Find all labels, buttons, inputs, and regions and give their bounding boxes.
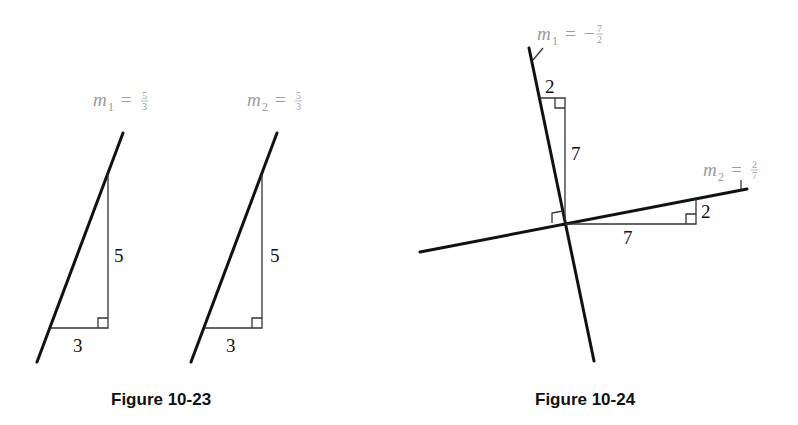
right-angle-marker — [98, 318, 108, 328]
slope-numerator: 2 — [752, 159, 757, 170]
slope-subscript: 1 — [108, 100, 114, 114]
slope-label-m1: m 1 = 5 3 — [93, 89, 148, 114]
slope-equals: = — [121, 89, 132, 110]
figure-caption: Figure 10-23 — [111, 390, 211, 409]
slope-label-m2: m 2 = 5 3 — [247, 89, 302, 114]
run-label: 2 — [545, 76, 555, 97]
figure-10-23: 5 3 m 1 = 5 3 5 3 m 2 = 5 — [37, 89, 302, 409]
slope-subscript: 1 — [552, 34, 558, 48]
perpendicular-line-2 — [420, 189, 747, 252]
slope-equals: = — [275, 89, 286, 110]
slope-label-m2: m 2 = 2 7 — [703, 159, 758, 184]
slope-var: m — [247, 89, 261, 110]
leader-tick — [533, 48, 543, 60]
slope-numerator: 7 — [597, 23, 602, 34]
figures-canvas: 5 3 m 1 = 5 3 5 3 m 2 = 5 — [0, 0, 798, 425]
right-angle-marker — [686, 214, 696, 224]
slope-equals: = — [565, 23, 576, 44]
slope-var: m — [703, 159, 717, 180]
parallel-line-1-group: 5 3 m 1 = 5 3 — [37, 89, 148, 362]
perpendicular-line-1 — [529, 48, 594, 361]
right-angle-marker — [555, 98, 565, 108]
slope-label-m1: m 1 = − 7 2 — [537, 23, 603, 48]
rise-label: 7 — [571, 143, 581, 164]
slope-denominator: 2 — [597, 34, 602, 45]
slope-denominator: 7 — [752, 170, 757, 181]
right-angle-marker — [252, 318, 262, 328]
perpendicular-marker — [552, 211, 563, 223]
slope-equals: = — [731, 159, 742, 180]
slope-numerator: 5 — [296, 90, 301, 101]
run-label: 3 — [226, 335, 236, 356]
slope-sign: − — [584, 23, 595, 44]
slope-var: m — [93, 89, 107, 110]
run-label: 3 — [73, 335, 83, 356]
perpendicular-line-2-group: 7 2 m 2 = 2 7 — [420, 159, 758, 252]
parallel-line-2-group: 5 3 m 2 = 5 3 — [191, 89, 302, 362]
slope-subscript: 2 — [262, 100, 268, 114]
slope-numerator: 5 — [142, 90, 147, 101]
figure-10-24: 2 7 m 1 = − 7 2 7 2 m 2 = 2 — [420, 23, 758, 409]
slope-denominator: 3 — [142, 101, 147, 112]
slope-var: m — [537, 23, 551, 44]
slope-subscript: 2 — [718, 170, 724, 184]
figure-caption: Figure 10-24 — [535, 390, 636, 409]
perpendicular-line-1-group: 2 7 m 1 = − 7 2 — [529, 23, 603, 361]
rise-label: 5 — [114, 245, 124, 266]
rise-label: 5 — [270, 245, 280, 266]
run-label: 7 — [623, 227, 633, 248]
rise-label: 2 — [701, 201, 711, 222]
slope-denominator: 3 — [296, 101, 301, 112]
